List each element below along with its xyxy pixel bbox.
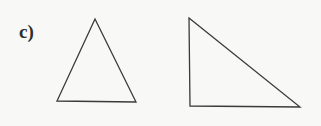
isosceles-triangle — [57, 19, 136, 102]
part-label: c) — [19, 21, 34, 43]
right-triangle — [189, 18, 300, 107]
geometry-canvas — [0, 0, 321, 126]
figure-container: c) — [0, 0, 321, 126]
